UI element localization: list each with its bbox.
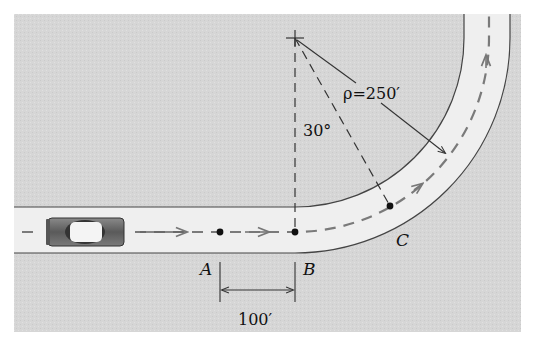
kinematics-diagram: A B C 30° ρ=250′ 100′ [0,0,534,348]
point-a-dot [217,229,224,236]
label-distance-ab: 100′ [238,310,273,329]
point-b-dot [292,229,299,236]
point-c-dot [387,203,394,210]
car-icon [46,218,124,246]
label-point-b: B [302,259,316,279]
label-point-a: A [198,259,212,279]
label-radius: ρ=250′ [343,84,400,103]
label-point-c: C [396,230,409,250]
label-angle: 30° [303,121,331,140]
